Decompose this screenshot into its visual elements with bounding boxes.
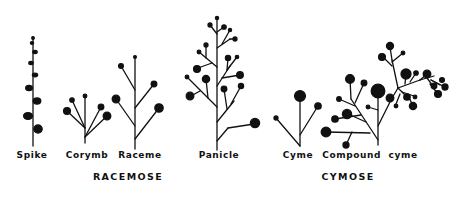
- label-spike: Spike: [17, 150, 48, 160]
- panicle-drawing: [185, 16, 259, 150]
- label-panicle: Panicle: [199, 150, 240, 160]
- cyme-drawing: [274, 91, 321, 146]
- label-corymb: Corymb: [66, 150, 109, 160]
- raceme-drawing: [112, 56, 163, 149]
- compound-cyme-drawing: [321, 43, 448, 149]
- inflorescence-diagram: [0, 0, 461, 200]
- group-label-cymose: CYMOSE: [321, 171, 374, 182]
- group-label-racemose: RACEMOSE: [93, 171, 163, 182]
- label-compound-cyme: Compound cyme: [322, 150, 417, 160]
- label-cyme: Cyme: [283, 150, 313, 160]
- spike-drawing: [24, 37, 43, 146]
- corymb-drawing: [64, 94, 111, 143]
- label-raceme: Raceme: [118, 150, 162, 160]
